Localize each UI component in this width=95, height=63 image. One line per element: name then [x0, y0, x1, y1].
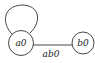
self-loop-edge-a0: [5, 5, 37, 34]
node-b0-label: b0: [77, 38, 89, 48]
edge-a0-b0-label: ab0: [43, 49, 60, 59]
graph-canvas: a0 b0 ab0: [0, 0, 95, 63]
node-a0-label: a0: [15, 38, 26, 48]
